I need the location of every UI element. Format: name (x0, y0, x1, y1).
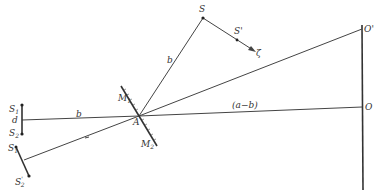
arrow-s-to-zeta (203, 18, 253, 50)
point-s-prime (236, 39, 239, 42)
point-s2-prime (27, 174, 30, 177)
label-o-prime: O' (364, 24, 374, 34)
label-m2: M2 (140, 139, 154, 150)
label-o: O (365, 102, 373, 112)
optics-diagram: S S' ζ b b M1 M2 A (a−b) O O' S1 d S2 S1… (0, 0, 376, 193)
label-s: S (199, 4, 205, 14)
label-s2: S2 (9, 128, 19, 139)
tick-mark (85, 137, 89, 138)
label-a: A (132, 117, 140, 127)
point-s2 (20, 132, 23, 135)
label-m1: M1 (117, 93, 131, 104)
screen-line (362, 25, 363, 190)
label-b-upper: b (167, 55, 173, 65)
label-b-lower: b (76, 109, 82, 119)
label-s-prime: S' (234, 26, 243, 36)
ray-image-to-a (24, 116, 139, 160)
label-s1: S1 (9, 104, 19, 115)
point-s (201, 16, 204, 19)
label-a-minus-b: (a−b) (232, 100, 258, 110)
point-s1 (20, 103, 23, 106)
label-s1-prime: S1 (8, 143, 18, 154)
label-zeta: ζ (256, 48, 262, 58)
label-d: d (12, 115, 18, 125)
label-s2-prime: S'2 (15, 175, 25, 188)
arrowhead-icon (248, 46, 256, 52)
ray-a-to-s (139, 18, 203, 116)
